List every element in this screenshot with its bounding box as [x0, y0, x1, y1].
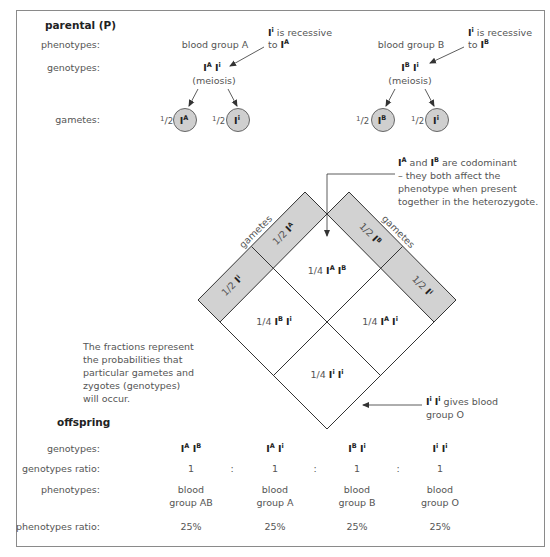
svg-text:IA IB: IA IB — [181, 442, 201, 454]
offspring-col-a: IA Ii 1 blood group A 25% — [256, 442, 294, 532]
parent-a-genotype: IA Ii — [203, 61, 221, 73]
parental-gametes-label: gametes: — [55, 114, 100, 125]
svg-text:blood: blood — [427, 484, 453, 495]
parental-title: parental (P) — [45, 19, 116, 31]
parental-genotypes-label: genotypes: — [47, 62, 100, 73]
parent-b-phenotype: blood group B — [378, 39, 444, 50]
codominant-note-line1: IA and IB are codominant — [398, 156, 517, 168]
svg-text:IB Ii: IB Ii — [348, 442, 366, 454]
offspring-col-o: Ii Ii 1 blood group O 25% — [421, 442, 459, 532]
group-o-note-line1: Ii Ii gives blood — [426, 395, 498, 407]
svg-text:Ii Ii: Ii Ii — [433, 442, 448, 454]
fractions-note-line3: particular gametes and — [83, 367, 194, 378]
svg-text:25%: 25% — [264, 521, 285, 532]
offspring-phenotypes-label: phenotypes: — [41, 484, 100, 495]
group-o-note-line2: group O — [426, 409, 464, 420]
punnett-diagram: parental (P) phenotypes: genotypes: game… — [0, 0, 550, 557]
svg-text:1: 1 — [354, 463, 360, 474]
offspring-genotypes-label: genotypes: — [47, 443, 100, 454]
svg-text:1: 1 — [437, 463, 443, 474]
svg-text:25%: 25% — [180, 521, 201, 532]
gamete-a2: 1/2 Ii — [212, 109, 250, 132]
gamete-a1: 1/2 IA — [160, 109, 197, 132]
offspring-col-ab: IA IB 1 blood group AB 25% — [169, 442, 213, 532]
svg-text:IA Ii: IA Ii — [266, 442, 284, 454]
svg-text:to IA: to IA — [268, 38, 289, 50]
ratio-separator: : — [230, 463, 233, 474]
svg-text:group A: group A — [256, 497, 294, 508]
parent-a-meiosis: (meiosis) — [192, 75, 236, 86]
cell-ib-ii: 1/4 IB Ii — [256, 315, 292, 327]
parental-phenotypes-label: phenotypes: — [41, 39, 100, 50]
cell-ia-ib: 1/4 IA IB — [308, 264, 346, 276]
arrow-icon — [386, 89, 395, 106]
parent-b-recessive-note: Ii is recessive — [468, 26, 532, 38]
svg-text:25%: 25% — [429, 521, 450, 532]
parent-b-genotype: IB Ii — [401, 61, 419, 73]
cell-ia-ii: 1/4 IA Ii — [362, 315, 398, 327]
svg-text:group AB: group AB — [169, 497, 213, 508]
ratio-separator: : — [396, 463, 399, 474]
svg-text:blood: blood — [178, 484, 204, 495]
fractions-note-line2: the probabilities that — [83, 354, 183, 365]
gamete-b2: 1/2 Ii — [411, 109, 449, 132]
svg-text:group O: group O — [421, 497, 459, 508]
fractions-note-line1: The fractions represent — [82, 341, 194, 352]
svg-text:1: 1 — [188, 463, 194, 474]
svg-text:group B: group B — [338, 497, 375, 508]
gamete-b1: 1/2 IB — [356, 109, 395, 132]
offspring-title: offspring — [57, 416, 110, 428]
offspring-genotypes-ratio-label: genotypes ratio: — [22, 463, 100, 474]
parent-a-phenotype: blood group A — [182, 39, 249, 50]
gamete-fraction: 1/2 — [411, 115, 424, 126]
parent-a-recessive-note: Ii is recessive — [268, 26, 332, 38]
svg-text:1: 1 — [272, 463, 278, 474]
parent-b-meiosis: (meiosis) — [388, 75, 432, 86]
arrow-icon — [189, 89, 198, 106]
gamete-fraction: 1/2 — [160, 115, 173, 126]
svg-text:blood: blood — [344, 484, 370, 495]
fractions-note-line5: will occur. — [83, 393, 130, 404]
codominant-note-line2: – they both affect the — [398, 170, 501, 181]
fractions-note-line4: zygotes (genotypes) — [83, 380, 180, 391]
gamete-fraction: 1/2 — [356, 115, 369, 126]
codominant-note-line4: together in the heterozygote. — [398, 196, 538, 207]
svg-text:to IB: to IB — [468, 38, 489, 50]
ratio-separator: : — [313, 463, 316, 474]
offspring-col-b: IB Ii 1 blood group B 25% — [338, 442, 375, 532]
gamete-fraction: 1/2 — [212, 115, 225, 126]
codominant-note-line3: phenotype when present — [398, 183, 517, 194]
svg-text:25%: 25% — [346, 521, 367, 532]
arrow-icon — [228, 89, 237, 106]
offspring-phenotypes-ratio-label: phenotypes ratio: — [16, 521, 100, 532]
arrow-icon — [425, 89, 434, 106]
svg-text:blood: blood — [262, 484, 288, 495]
cell-ii-ii: 1/4 Ii Ii — [311, 368, 344, 380]
